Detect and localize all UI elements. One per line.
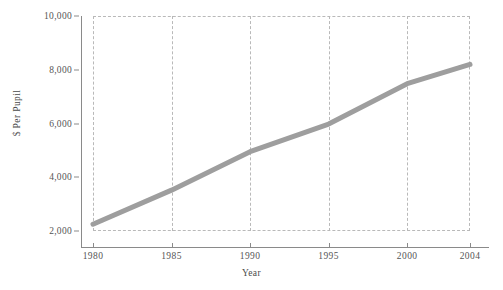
plot-area [93, 16, 470, 231]
y-tick-mark [74, 123, 79, 124]
y-tick-mark [74, 231, 79, 232]
x-tick-mark [407, 243, 408, 247]
y-tick-mark [74, 16, 79, 17]
x-tick-mark [93, 243, 94, 247]
x-tick-mark [470, 243, 471, 247]
x-tick-label: 1995 [305, 251, 353, 261]
x-tick-mark [172, 243, 173, 247]
x-tick-label: 2004 [446, 251, 494, 261]
y-tick-label: 6,000 [26, 119, 72, 129]
y-axis-title: $ Per Pupil [12, 68, 22, 158]
y-tick-mark [74, 69, 79, 70]
y-tick-label: 10,000 [26, 11, 72, 21]
x-tick-mark [329, 243, 330, 247]
y-axis-line [81, 16, 82, 247]
x-tick-label: 1980 [69, 251, 117, 261]
y-tick-label: 8,000 [26, 65, 72, 75]
x-tick-label: 2000 [383, 251, 431, 261]
y-tick-label: 2,000 [26, 226, 72, 236]
x-tick-label: 1985 [148, 251, 196, 261]
x-axis-line [81, 247, 489, 248]
x-tick-mark [250, 243, 251, 247]
x-axis-title: Year [0, 268, 503, 278]
data-series-line [93, 16, 470, 231]
y-tick-label: 4,000 [26, 172, 72, 182]
x-tick-label: 1990 [226, 251, 274, 261]
line-chart: $ Per Pupil 2,0004,0006,0008,00010,000 1… [0, 0, 503, 290]
y-tick-mark [74, 177, 79, 178]
